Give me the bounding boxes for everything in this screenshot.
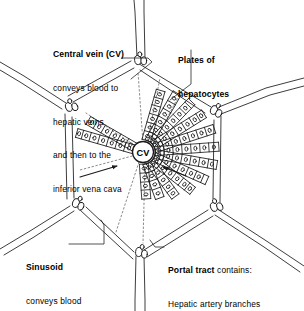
- annotation-central-vein-line-1: conveys blood to: [53, 83, 124, 94]
- annotation-sinusoid-line-1: conveys blood: [26, 296, 96, 307]
- annotation-plates-line-1: hepatocytes: [178, 89, 229, 100]
- annotation-central-vein-heading: Central vein (CV): [53, 49, 124, 60]
- annotation-central-vein-line-2: hepatic veins: [53, 117, 124, 128]
- annotation-sinusoid: Sinusoid conveys blood from hepatic arte…: [26, 240, 96, 311]
- annotation-portal-tract-line-1: Hepatic artery branches: [168, 299, 260, 310]
- central-vein-label: CV: [137, 148, 151, 158]
- annotation-sinusoid-heading: Sinusoid: [26, 262, 96, 273]
- annotation-portal-tract-heading: Portal tract: [168, 265, 215, 275]
- annotation-central-vein-line-4: inferior vena cava: [53, 184, 124, 195]
- annotation-central-vein: Central vein (CV) conveys blood to hepat…: [53, 27, 124, 217]
- annotation-plates: Plates of hepatocytes: [178, 33, 229, 123]
- annotation-central-vein-line-3: and then to the: [53, 150, 124, 161]
- annotation-portal-tract-heading-suffix: contains:: [215, 265, 252, 275]
- figure-canvas: CV Central vein (CV) conveys blood to he…: [0, 0, 304, 311]
- annotation-plates-heading: Plates of: [178, 55, 229, 66]
- annotation-portal-tract: Portal tract contains: Hepatic artery br…: [168, 243, 260, 311]
- leader-portal-tract: [150, 240, 164, 247]
